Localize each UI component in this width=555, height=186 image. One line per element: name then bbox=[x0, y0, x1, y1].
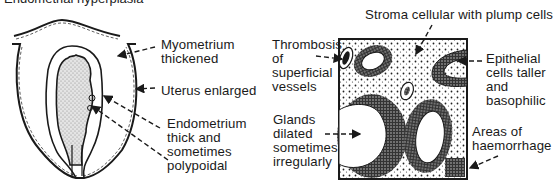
label-line: Epithelial bbox=[486, 52, 546, 66]
label-line: Thrombosis bbox=[272, 38, 342, 52]
label-glands: Glands dilated sometimes irregularly bbox=[273, 113, 338, 169]
label-line: Glands bbox=[273, 113, 338, 127]
label-line: Uterus enlarged bbox=[161, 84, 256, 98]
label-haemorrhage: Areas of haemorrhage bbox=[472, 125, 552, 153]
histology-illustration bbox=[337, 39, 467, 179]
label-line: sometimes bbox=[167, 145, 247, 159]
left-leader-lines bbox=[92, 47, 168, 160]
label-line: basophilic bbox=[486, 94, 546, 108]
label-line: Areas of bbox=[472, 125, 552, 139]
label-myometrium: Myometrium thickened bbox=[161, 38, 235, 66]
label-thrombosis: Thrombosis of superficial vessels bbox=[272, 38, 342, 94]
label-line: of bbox=[272, 52, 342, 66]
label-epithelial: Epithelial cells taller and basophilic bbox=[486, 52, 546, 108]
label-line: dilated bbox=[273, 127, 338, 141]
label-line: and bbox=[486, 80, 546, 94]
label-line: thick and bbox=[167, 131, 247, 145]
label-line: vessels bbox=[272, 80, 342, 94]
label-line: thickened bbox=[161, 52, 235, 66]
label-line: haemorrhage bbox=[472, 139, 552, 153]
label-uterus-enlarged: Uterus enlarged bbox=[161, 84, 256, 98]
label-line: cells taller bbox=[486, 66, 546, 80]
uterus-illustration bbox=[12, 20, 136, 178]
label-line: sometimes bbox=[273, 141, 338, 155]
label-line: Endometrium bbox=[167, 117, 247, 131]
label-line: superficial bbox=[272, 66, 342, 80]
label-line: Stroma cellular with plump cells bbox=[365, 8, 553, 22]
label-endometrium: Endometrium thick and sometimes polypoid… bbox=[167, 117, 247, 173]
label-stroma: Stroma cellular with plump cells bbox=[365, 8, 553, 22]
label-line: Myometrium bbox=[161, 38, 235, 52]
label-line: polypoidal bbox=[167, 159, 247, 173]
label-line: irregularly bbox=[273, 155, 338, 169]
